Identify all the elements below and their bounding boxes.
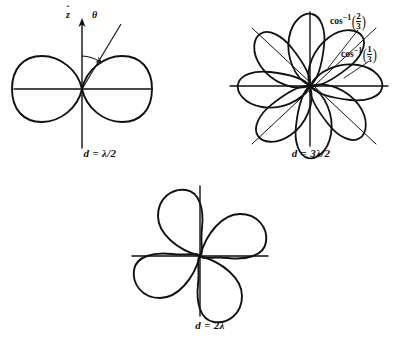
caption-value: 3λ/2 bbox=[310, 147, 330, 159]
panel-three-half-lambda: cos−1(23) cos−1(13) d = 3λ/2 bbox=[208, 0, 414, 174]
caption-equals: = bbox=[201, 319, 214, 331]
cos-function-label: cos bbox=[330, 16, 343, 26]
fraction-denominator: 3 bbox=[367, 54, 372, 64]
lobe-lower-left bbox=[134, 254, 200, 298]
figure-sheet: ˆz θ d = λ/2 bbox=[0, 0, 414, 347]
lobe-upper-right bbox=[200, 214, 266, 258]
right-paren: ) bbox=[362, 13, 366, 30]
z-hat-accent: ˆ bbox=[66, 5, 69, 14]
theta-angle-label: θ bbox=[92, 10, 97, 20]
fraction-numerator: 2 bbox=[356, 12, 361, 21]
caption-equals: = bbox=[89, 147, 102, 159]
cos-exponent: −1 bbox=[354, 46, 362, 55]
caption-equals: = bbox=[298, 147, 311, 159]
fraction-two-thirds: 23 bbox=[356, 12, 361, 32]
caption-three-half-lambda: d = 3λ/2 bbox=[208, 147, 414, 159]
caption-half-lambda: d = λ/2 bbox=[0, 147, 200, 159]
annotation-cos-inverse-two-thirds: cos−1(23) bbox=[330, 12, 366, 32]
caption-value: 2λ bbox=[214, 319, 225, 331]
fraction-numerator: 1 bbox=[367, 45, 372, 54]
pattern-plot-three-half-lambda bbox=[208, 0, 414, 150]
lobe-upper-left bbox=[158, 190, 202, 256]
cos-function-label: cos bbox=[341, 49, 354, 59]
panel-half-lambda: ˆz θ d = λ/2 bbox=[0, 0, 200, 174]
caption-value: λ/2 bbox=[102, 147, 116, 159]
pattern-plot-half-lambda bbox=[0, 0, 200, 150]
z-axis-label: ˆz bbox=[66, 10, 70, 20]
lobe-lower-right bbox=[198, 256, 242, 322]
panel-two-lambda: d = 2λ bbox=[110, 176, 310, 347]
right-paren: ) bbox=[373, 46, 377, 63]
pattern-plot-two-lambda bbox=[110, 176, 310, 321]
cos-exponent: −1 bbox=[343, 13, 351, 22]
fraction-one-third: 13 bbox=[367, 45, 372, 65]
theta-arc bbox=[82, 56, 100, 62]
annotation-cos-inverse-one-third: cos−1(13) bbox=[341, 45, 377, 65]
caption-two-lambda: d = 2λ bbox=[110, 319, 310, 331]
fraction-denominator: 3 bbox=[356, 21, 361, 31]
left-paren: ( bbox=[351, 13, 355, 30]
left-paren: ( bbox=[362, 46, 366, 63]
